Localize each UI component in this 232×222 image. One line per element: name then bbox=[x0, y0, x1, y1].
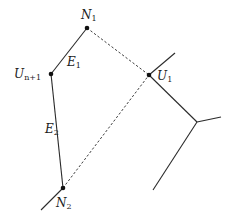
node-u1 bbox=[147, 73, 152, 78]
edge-junction-right bbox=[197, 117, 221, 122]
node-u-n-plus-1 bbox=[49, 72, 54, 77]
label-u1-sub: 1 bbox=[167, 75, 172, 84]
label-n2: N2 bbox=[55, 196, 72, 211]
label-n1-main: N bbox=[80, 8, 92, 22]
graph-diagram: N1 Un+1 U1 N2 E1 E2 bbox=[0, 0, 232, 222]
label-u1: U1 bbox=[157, 69, 172, 84]
label-un1-sub: n+1 bbox=[24, 73, 41, 82]
label-e2-sub: 2 bbox=[54, 128, 59, 137]
label-e1: E1 bbox=[66, 55, 81, 70]
edge-junction-down bbox=[153, 122, 197, 190]
label-e1-main: E bbox=[66, 55, 76, 69]
label-n1-sub: 1 bbox=[92, 14, 97, 23]
label-n2-main: N bbox=[55, 196, 67, 210]
dashed-edge-n1-u1 bbox=[87, 28, 149, 75]
node-n1 bbox=[85, 26, 90, 31]
node-n2 bbox=[61, 186, 66, 191]
label-e2-main: E bbox=[44, 122, 54, 136]
label-n2-sub: 2 bbox=[67, 202, 72, 211]
dashed-edge-n2-u1 bbox=[63, 75, 149, 188]
label-n1: N1 bbox=[80, 8, 97, 23]
label-e1-sub: 1 bbox=[76, 61, 81, 70]
label-u-n-plus-1: Un+1 bbox=[14, 67, 41, 82]
